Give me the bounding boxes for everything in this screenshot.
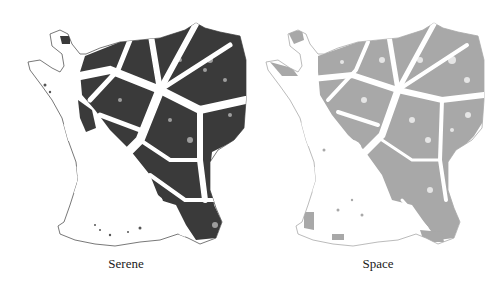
space-caption: Space	[252, 256, 504, 272]
serene-map-panel: Serene	[0, 0, 252, 293]
space-map	[252, 0, 504, 293]
serene-map	[0, 0, 252, 293]
space-map-panel: Space	[252, 0, 504, 293]
serene-caption: Serene	[0, 256, 252, 272]
